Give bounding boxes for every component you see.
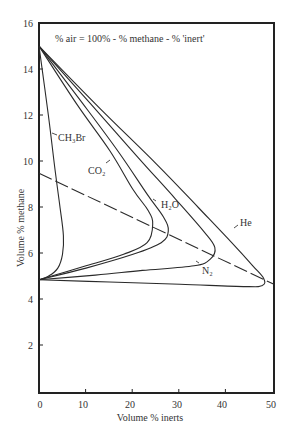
curve-ch3br: [39, 46, 64, 280]
y-tick-label: 12: [23, 110, 33, 121]
x-tick-label: 50: [266, 399, 276, 410]
y-tick-label: 14: [23, 64, 33, 75]
label-n2: N₂: [202, 265, 213, 276]
flammability-curves: [39, 46, 265, 287]
y-tick-label: 16: [23, 18, 33, 29]
stoichiometric-dashed-line: [39, 173, 274, 284]
x-tick-label: 20: [125, 399, 135, 410]
curve-h2o: [39, 46, 168, 280]
x-tick-label: 0: [38, 399, 43, 410]
y-tick-label: 8: [28, 202, 33, 213]
label-h2o: H₂O: [161, 199, 179, 210]
x-axis-title: Volume % inerts: [117, 412, 184, 423]
x-tick-labels: 0 10 20 30 40 50: [38, 399, 277, 410]
y-tick-label: 2: [28, 340, 33, 351]
y-tick-label: 4: [28, 294, 33, 305]
y-tick-labels: 2 4 6 8 10 12 14 16: [23, 18, 33, 351]
label-ch3br: CH₃Br: [58, 132, 86, 143]
x-tick-label: 40: [217, 399, 227, 410]
flammability-chart: 2 4 6 8 10 12 14 16 0 10 20 30 40 50 Vol…: [0, 0, 288, 438]
curve-he: [39, 46, 265, 287]
y-tick-label: 10: [23, 156, 33, 167]
curve-co2: [39, 46, 153, 280]
chart-annotation: % air = 100% - % methane - % 'inert': [55, 33, 205, 44]
y-tick-label: 6: [28, 248, 33, 259]
curve-labels: CH₃Br CO₂ H₂O He N₂: [52, 132, 252, 276]
y-axis-title: Volume % methane: [15, 188, 26, 267]
label-he: He: [240, 217, 252, 228]
x-tick-label: 30: [172, 399, 182, 410]
x-tick-label: 10: [78, 399, 88, 410]
plot-frame: [39, 23, 274, 393]
label-co2: CO₂: [88, 165, 105, 176]
